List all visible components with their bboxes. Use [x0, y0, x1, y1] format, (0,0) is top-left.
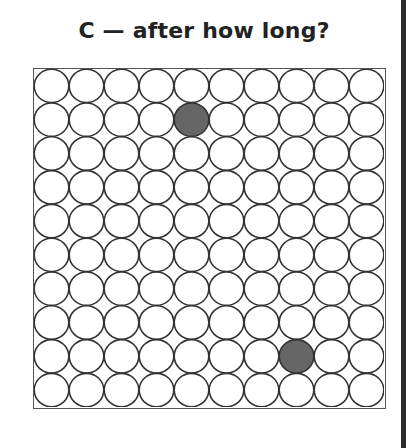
empty-cell [349, 171, 384, 204]
empty-cell [69, 171, 104, 204]
empty-cell [279, 306, 314, 339]
empty-cell [314, 171, 349, 204]
empty-cell [34, 373, 69, 406]
empty-cell [174, 238, 209, 271]
empty-cell [139, 238, 174, 271]
empty-cell [174, 373, 209, 406]
empty-cell [139, 137, 174, 170]
empty-cell [34, 340, 69, 373]
empty-cell [104, 69, 139, 102]
empty-cell [209, 137, 244, 170]
empty-cell [244, 238, 279, 271]
filled-cell [279, 340, 314, 373]
empty-cell [34, 306, 69, 339]
empty-cell [209, 103, 244, 136]
empty-cell [244, 137, 279, 170]
empty-cell [139, 69, 174, 102]
empty-cell [104, 103, 139, 136]
empty-cell [349, 204, 384, 237]
empty-cell [139, 306, 174, 339]
empty-cell [314, 340, 349, 373]
empty-cell [69, 272, 104, 305]
circle-grid-canvas [34, 69, 384, 407]
empty-cell [279, 137, 314, 170]
empty-cell [209, 306, 244, 339]
empty-cell [69, 306, 104, 339]
empty-cell [174, 272, 209, 305]
empty-cell [69, 340, 104, 373]
empty-cell [34, 272, 69, 305]
empty-cell [104, 238, 139, 271]
empty-cell [174, 340, 209, 373]
empty-cell [314, 238, 349, 271]
empty-cell [174, 204, 209, 237]
empty-cell [314, 204, 349, 237]
empty-cell [104, 272, 139, 305]
empty-cell [209, 204, 244, 237]
empty-cell [209, 340, 244, 373]
empty-cell [279, 373, 314, 406]
filled-cell [174, 103, 209, 136]
right-border-bar [401, 0, 406, 448]
empty-cell [34, 137, 69, 170]
empty-cell [279, 103, 314, 136]
empty-cell [349, 238, 384, 271]
empty-cell [209, 171, 244, 204]
empty-cell [279, 204, 314, 237]
empty-cell [139, 272, 174, 305]
empty-cell [279, 69, 314, 102]
empty-cell [34, 204, 69, 237]
puzzle-title: C — after how long? [0, 18, 408, 43]
empty-cell [69, 69, 104, 102]
empty-cell [349, 137, 384, 170]
empty-cell [104, 137, 139, 170]
empty-cell [314, 272, 349, 305]
empty-cell [279, 272, 314, 305]
empty-cell [104, 171, 139, 204]
empty-cell [69, 103, 104, 136]
empty-cell [139, 103, 174, 136]
empty-cell [104, 373, 139, 406]
empty-cell [104, 340, 139, 373]
empty-cell [139, 340, 174, 373]
empty-cell [279, 171, 314, 204]
empty-cell [314, 103, 349, 136]
empty-cell [244, 272, 279, 305]
empty-cell [209, 238, 244, 271]
empty-cell [349, 103, 384, 136]
empty-cell [139, 171, 174, 204]
empty-cell [34, 238, 69, 271]
empty-cell [314, 373, 349, 406]
empty-cell [244, 306, 279, 339]
empty-cell [244, 69, 279, 102]
empty-cell [209, 69, 244, 102]
empty-cell [69, 137, 104, 170]
empty-cell [349, 272, 384, 305]
empty-cell [279, 238, 314, 271]
empty-cell [69, 238, 104, 271]
empty-cell [314, 69, 349, 102]
empty-cell [34, 171, 69, 204]
empty-cell [314, 306, 349, 339]
empty-cell [174, 306, 209, 339]
empty-cell [69, 204, 104, 237]
empty-cell [174, 171, 209, 204]
empty-cell [104, 306, 139, 339]
empty-cell [209, 272, 244, 305]
empty-cell [244, 204, 279, 237]
empty-cell [69, 373, 104, 406]
empty-cell [244, 340, 279, 373]
empty-cell [34, 103, 69, 136]
empty-cell [174, 69, 209, 102]
empty-cell [349, 340, 384, 373]
circle-grid [33, 68, 386, 409]
empty-cell [244, 373, 279, 406]
empty-cell [349, 373, 384, 406]
empty-cell [209, 373, 244, 406]
empty-cell [314, 137, 349, 170]
empty-cell [139, 204, 174, 237]
empty-cell [244, 171, 279, 204]
empty-cell [139, 373, 174, 406]
empty-cell [104, 204, 139, 237]
empty-cell [174, 137, 209, 170]
